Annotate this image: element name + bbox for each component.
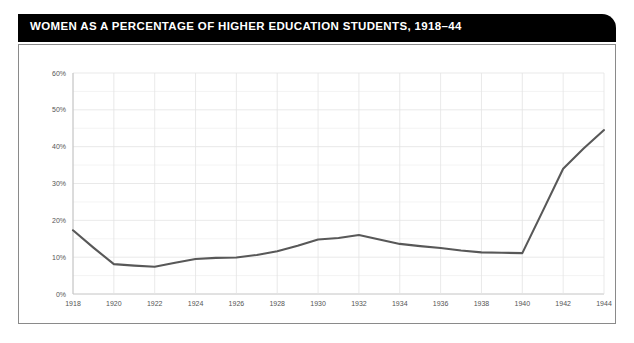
chart-title-bar: WOMEN AS A PERCENTAGE OF HIGHER EDUCATIO…: [18, 14, 616, 42]
chart-page: WOMEN AS A PERCENTAGE OF HIGHER EDUCATIO…: [0, 0, 634, 343]
chart-card: [18, 44, 616, 324]
page-title: WOMEN AS A PERCENTAGE OF HIGHER EDUCATIO…: [30, 20, 462, 32]
